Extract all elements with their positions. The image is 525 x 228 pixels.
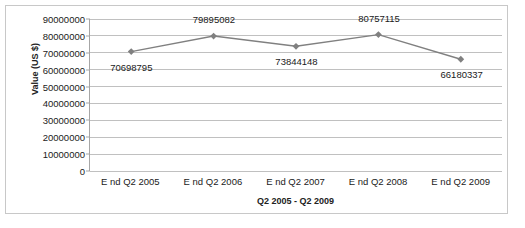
data-point-label: 70698795 <box>110 62 152 73</box>
data-point-label: 80757115 <box>358 13 400 24</box>
x-axis-tick-label: E nd Q2 2006 <box>184 176 243 187</box>
data-point-marker <box>210 33 217 40</box>
y-axis-tick-label: 40000000 <box>43 98 85 109</box>
y-axis-tick-label: 60000000 <box>43 64 85 75</box>
y-axis-tick-label: 90000000 <box>43 14 85 25</box>
plot-area: 0100000002000000030000000400000005000000… <box>89 19 502 171</box>
y-axis-tick-label: 20000000 <box>43 132 85 143</box>
y-axis-tick-label: 0 <box>80 166 85 177</box>
data-point-label: 73844148 <box>275 56 317 67</box>
x-axis-tick-label: E nd Q2 2007 <box>266 176 325 187</box>
y-axis-tick-label: 70000000 <box>43 47 85 58</box>
data-point-marker <box>375 31 382 38</box>
x-axis-tick-label: E nd Q2 2008 <box>349 176 408 187</box>
data-point-marker <box>128 48 135 55</box>
data-point-marker <box>293 43 300 50</box>
x-axis-tick-label: E nd Q2 2005 <box>101 176 160 187</box>
x-axis-tick-label: E nd Q2 2009 <box>431 176 490 187</box>
data-point-marker <box>457 56 464 63</box>
y-axis-title: Value (US $) <box>30 14 40 124</box>
y-axis-tick-label: 10000000 <box>43 149 85 160</box>
y-axis-tick-label: 30000000 <box>43 115 85 126</box>
data-point-label: 79895082 <box>193 14 235 25</box>
y-axis-tick-label: 80000000 <box>43 30 85 41</box>
y-axis-tick-label: 50000000 <box>43 81 85 92</box>
line-series <box>90 19 502 171</box>
x-axis-title: Q2 2005 - Q2 2009 <box>89 196 502 206</box>
data-point-label: 66180337 <box>441 69 483 80</box>
chart-frame: Value (US $) 010000000200000003000000040… <box>5 5 508 214</box>
x-axis-tick-labels: E nd Q2 2005E nd Q2 2006E nd Q2 2007E nd… <box>89 176 502 192</box>
